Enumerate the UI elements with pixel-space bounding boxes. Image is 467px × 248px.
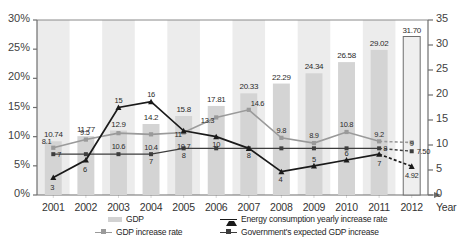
gdp-bar-label-2004: 14.2: [144, 113, 158, 122]
energy-rate-label-2001: 3: [50, 183, 54, 192]
energy-rate-label-2012: 4.92: [405, 171, 418, 180]
chart-container: 0%5%10%15%20%25%30%0510152025303510.7411…: [0, 0, 467, 248]
y-axis-right-tick-35: 35: [436, 12, 448, 24]
x-axis-title: Year: [436, 201, 456, 213]
x-axis-year-2004: 2004: [140, 201, 163, 213]
gdp-rate-label-2011: 9.2: [374, 130, 384, 139]
gdp-bar-label-2010: 26.58: [337, 51, 356, 60]
x-axis-year-2001: 2001: [42, 201, 65, 213]
gdp-rate-label-2001: 8.1: [42, 137, 52, 146]
gdp-rate-label-2003: 10.6: [112, 142, 125, 151]
energy-rate-label-2008: 4: [278, 175, 282, 184]
gdp-bar-label-2007: 20.33: [240, 82, 259, 91]
gdp-rate-label-2012: 9: [410, 139, 414, 148]
energy-rate-label-2010: 6: [345, 149, 349, 158]
y-axis-right-tick-25: 25: [436, 62, 448, 74]
y-axis-left-tick-5: 5%: [14, 158, 30, 170]
y-axis-right-tick-20: 20: [436, 87, 448, 99]
legend-swatch-line-3: [220, 228, 237, 236]
x-axis-year-2010: 2010: [335, 201, 358, 213]
x-axis-year-2008: 2008: [270, 201, 293, 213]
gdp-rate-label-2010: 10.8: [340, 120, 353, 129]
y-axis-left-tick-25: 25%: [8, 41, 30, 53]
x-axis-year-2005: 2005: [172, 201, 195, 213]
y-axis-right-tick-15: 15: [436, 112, 448, 124]
energy-rate-label-2002: 6: [83, 165, 87, 174]
expected-gdp-label-2005: 8: [182, 151, 186, 160]
x-axis-year-2012: 2012: [400, 201, 423, 213]
gdp-rate-label-2005: 10.7: [177, 142, 190, 151]
legend-label-0: GDP: [126, 214, 144, 224]
legend-swatch-line-1: [95, 228, 112, 236]
chart-text-layer: 0%5%10%15%20%25%30%0510152025303510.7411…: [0, 0, 467, 248]
x-axis-year-2007: 2007: [238, 201, 261, 213]
x-axis-year-2011: 2011: [368, 201, 390, 213]
y-axis-left-tick-30: 30%: [8, 12, 30, 24]
gdp-rate-label-2008: 9.8: [277, 126, 287, 135]
gdp-bar-label-2012: 31.70: [402, 26, 421, 35]
x-axis-year-2009: 2009: [303, 201, 326, 213]
gdp-rate-label-2004: 10.4: [144, 143, 157, 152]
legend-label-3: Government's expected GDP increase: [241, 227, 379, 237]
legend-square-icon: [101, 229, 106, 234]
y-axis-right-tick-10: 10: [436, 137, 448, 149]
energy-rate-label-2004: 16: [147, 90, 155, 99]
y-axis-left-tick-20: 20%: [8, 70, 30, 82]
expected-gdp-label-2001: 7: [57, 150, 61, 159]
y-axis-left-tick-0: 0%: [14, 187, 30, 199]
x-axis-year-2003: 2003: [107, 201, 130, 213]
gdp-bar-label-2008: 22.29: [272, 73, 291, 82]
x-axis-year-2002: 2002: [75, 201, 98, 213]
x-axis-year-2006: 2006: [205, 201, 228, 213]
gdp-bar-label-2003: 12.9: [111, 120, 125, 129]
energy-rate-label-2005: 11: [174, 130, 181, 139]
energy-rate-label-2011: 7: [377, 159, 381, 168]
y-axis-right-tick-0: 0: [436, 187, 442, 199]
legend-label-2: Energy consumption yearly increase rate: [241, 214, 387, 224]
gdp-rate-label-2006: 13.3: [201, 116, 214, 125]
expected-gdp-label-2004: 7: [149, 157, 153, 166]
legend-item-1[interactable]: GDP increase rate: [95, 227, 182, 237]
legend-item-0[interactable]: GDP: [108, 214, 144, 224]
legend-triangle-icon: [226, 216, 237, 226]
y-axis-left-tick-10: 10%: [8, 129, 30, 141]
energy-rate-label-2007: 8: [247, 151, 251, 160]
y-axis-right-tick-5: 5: [436, 162, 442, 174]
legend-square-icon: [226, 229, 231, 234]
expected-gdp-label-2012: 7.50: [417, 147, 430, 156]
gdp-bar-label-2006: 17.81: [207, 95, 226, 104]
energy-rate-label-2006: 10: [212, 140, 220, 149]
y-axis-left-tick-15: 15%: [8, 100, 30, 112]
gdp-bar-label-2009: 24.34: [305, 62, 324, 71]
expected-gdp-label-2011: 8: [383, 144, 387, 153]
y-axis-right-tick-30: 30: [436, 37, 448, 49]
energy-rate-label-2003: 15: [115, 96, 123, 105]
legend-item-3[interactable]: Government's expected GDP increase: [220, 227, 379, 237]
gdp-rate-label-2002: 9.5: [80, 128, 90, 137]
legend-label-1: GDP increase rate: [116, 227, 182, 237]
gdp-bar-label-2005: 15.8: [176, 105, 190, 114]
chart-legend: GDPGDP increase rateEnergy consumption y…: [0, 214, 467, 244]
gdp-rate-label-2007: 14.6: [251, 99, 264, 108]
legend-item-2[interactable]: Energy consumption yearly increase rate: [220, 214, 387, 224]
legend-swatch-line-2: [220, 215, 237, 223]
energy-rate-label-2009: 5: [312, 155, 316, 164]
gdp-rate-label-2009: 8.9: [309, 131, 319, 140]
legend-swatch-bar: [108, 217, 122, 222]
gdp-bar-label-2011: 29.02: [370, 39, 389, 48]
